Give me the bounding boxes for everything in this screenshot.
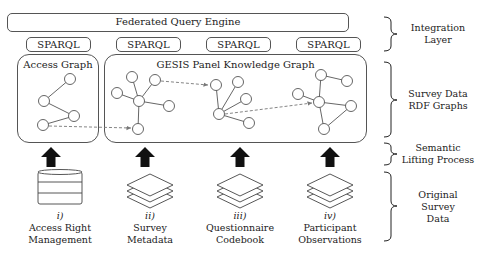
gesis-cluster-metadata: [112, 72, 175, 135]
layer-label-line: Integration: [393, 22, 481, 34]
up-arrow-icon: [135, 147, 155, 167]
layer-label-semantic-lifting: Semantic Lifting Process: [393, 142, 481, 166]
layer-label-rdf-graphs: Survey Data RDF Graphs: [393, 88, 481, 112]
cross-graph-links: [49, 81, 312, 128]
source-numeral: iv): [285, 210, 375, 222]
source-label-line: Survey: [105, 222, 195, 234]
layers-icon: [307, 174, 353, 208]
gesis-cluster-observations: [293, 70, 357, 135]
layer-label-line: Layer: [393, 34, 481, 46]
layer-label-integration: Integration Layer: [393, 22, 481, 46]
up-arrow-icon: [230, 147, 250, 167]
layer-label-line: RDF Graphs: [393, 100, 481, 112]
layer-label-line: Survey: [393, 201, 481, 213]
layer-label-line: Lifting Process: [393, 154, 481, 166]
layers-icon: [127, 174, 173, 208]
source-numeral: iii): [195, 210, 285, 222]
source-numeral: ii): [105, 210, 195, 222]
source-label-line: Metadata: [105, 234, 195, 246]
source-numeral: i): [15, 210, 105, 222]
layer-label-line: Semantic: [393, 142, 481, 154]
source-label-line: Codebook: [195, 234, 285, 246]
up-arrow-icon: [41, 147, 61, 167]
source-label-line: Access Right: [15, 222, 105, 234]
source-label-line: Management: [15, 234, 105, 246]
source-label-line: Observations: [285, 234, 375, 246]
layer-label-original-data: Original Survey Data: [393, 189, 481, 225]
layers-icon: [217, 174, 263, 208]
gesis-cluster-codebook: [211, 77, 255, 129]
source-access-right-management: i) Access Right Management: [15, 210, 105, 246]
layer-label-line: Survey Data: [393, 88, 481, 100]
lifting-arrows: [41, 147, 340, 167]
layer-label-line: Original: [393, 189, 481, 201]
source-participant-observations: iv) Participant Observations: [285, 210, 375, 246]
up-arrow-icon: [320, 147, 340, 167]
source-questionnaire-codebook: iii) Questionnaire Codebook: [195, 210, 285, 246]
source-label-line: Questionnaire: [195, 222, 285, 234]
database-icon: [38, 170, 82, 205]
access-graph-network: [38, 74, 80, 131]
source-survey-metadata: ii) Survey Metadata: [105, 210, 195, 246]
layer-label-line: Data: [393, 213, 481, 225]
source-label-line: Participant: [285, 222, 375, 234]
